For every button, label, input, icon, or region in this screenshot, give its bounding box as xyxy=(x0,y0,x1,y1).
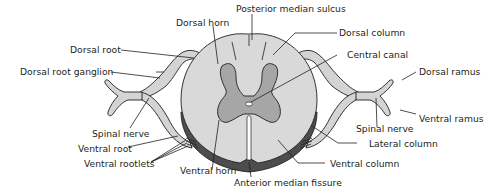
label-lateral-column: Lateral column xyxy=(369,138,438,149)
label-dorsal-root: Dorsal root xyxy=(70,44,121,55)
label-anterior-median-fissure: Anterior median fissure xyxy=(234,177,342,188)
label-ventral-root: Ventral root xyxy=(78,143,132,154)
label-ventral-ramus: Ventral ramus xyxy=(419,113,484,124)
label-ventral-horn: Ventral horn xyxy=(180,165,237,176)
label-ventral-rootlets: Ventral rootlets xyxy=(84,158,155,169)
anterior-median-fissure xyxy=(247,116,251,160)
spinal-cord-diagram: Posterior median sulcus Dorsal horn Dors… xyxy=(0,0,498,196)
label-central-canal: Central canal xyxy=(347,49,408,60)
spinal-cord xyxy=(181,34,317,172)
label-spinal-nerve-left: Spinal nerve xyxy=(92,128,150,139)
label-posterior-median-sulcus: Posterior median sulcus xyxy=(236,3,346,14)
label-dorsal-column: Dorsal column xyxy=(339,27,405,38)
label-ventral-column: Ventral column xyxy=(330,158,400,169)
label-spinal-nerve-right: Spinal nerve xyxy=(356,123,414,134)
label-dorsal-horn: Dorsal horn xyxy=(176,17,229,28)
right-spinal-nerve-trunk xyxy=(356,80,393,116)
label-dorsal-ramus: Dorsal ramus xyxy=(419,66,481,77)
central-canal xyxy=(246,102,253,106)
left-spinal-nerve-trunk xyxy=(105,80,142,116)
label-dorsal-root-ganglion: Dorsal root ganglion xyxy=(20,66,114,77)
